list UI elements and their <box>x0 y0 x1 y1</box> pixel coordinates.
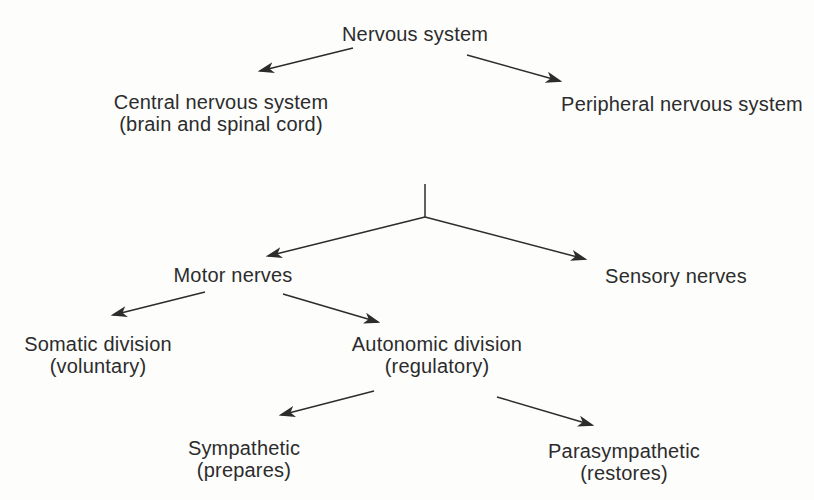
node-parasympathetic: Parasympathetic (restores) <box>548 440 700 484</box>
node-autonomic-division: Autonomic division (regulatory) <box>352 333 522 377</box>
edge-motor-to-somatic <box>113 292 205 315</box>
node-peripheral-label: Peripheral nervous system <box>561 93 803 115</box>
node-sensory-label: Sensory nerves <box>605 265 747 287</box>
edge-lines <box>0 0 814 500</box>
node-parasympathetic-label: Parasympathetic <box>548 440 700 462</box>
node-autonomic-sublabel: (regulatory) <box>352 355 522 377</box>
node-peripheral-nervous-system: Peripheral nervous system <box>561 93 803 115</box>
diagram-canvas: Nervous system Central nervous system (b… <box>0 0 814 500</box>
node-somatic-label: Somatic division <box>24 333 172 355</box>
node-central-label: Central nervous system <box>114 91 328 113</box>
edge-junction-to-sensory <box>425 217 585 259</box>
node-central-sublabel: (brain and spinal cord) <box>114 113 328 135</box>
node-motor-label: Motor nerves <box>173 264 292 286</box>
node-somatic-division: Somatic division (voluntary) <box>24 333 172 377</box>
node-nervous-system: Nervous system <box>342 23 488 45</box>
node-sensory-nerves: Sensory nerves <box>605 265 747 287</box>
edge-autonomic-to-sympathetic <box>281 391 374 415</box>
node-sympathetic: Sympathetic (prepares) <box>188 437 300 481</box>
node-parasympathetic-sublabel: (restores) <box>548 462 700 484</box>
node-nervous-system-label: Nervous system <box>342 23 488 45</box>
node-sympathetic-label: Sympathetic <box>188 437 300 459</box>
edge-autonomic-to-parasympathetic <box>497 397 592 425</box>
node-autonomic-label: Autonomic division <box>352 333 522 355</box>
node-central-nervous-system: Central nervous system (brain and spinal… <box>114 91 328 135</box>
edge-nervous-to-central <box>260 48 353 71</box>
edge-motor-to-autonomic <box>283 294 378 322</box>
node-motor-nerves: Motor nerves <box>173 264 292 286</box>
edge-nervous-to-peripheral <box>467 55 560 81</box>
edge-junction-to-motor <box>268 217 425 256</box>
node-somatic-sublabel: (voluntary) <box>24 355 172 377</box>
node-sympathetic-sublabel: (prepares) <box>188 459 300 481</box>
